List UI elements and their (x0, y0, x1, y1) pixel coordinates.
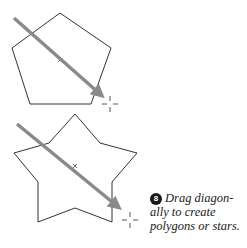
crosshair-cursor-icon (122, 212, 138, 228)
caption-line-3: polygons or stars. (150, 219, 240, 233)
caption-line-1: Drag diagon- (165, 191, 233, 205)
pentagon-group (12, 13, 118, 112)
crosshair-cursor-icon (102, 96, 118, 112)
star-group (14, 114, 138, 228)
step-caption: 8Drag diagon- ally to create polygons or… (150, 191, 247, 233)
step-number-badge: 8 (150, 193, 162, 205)
star-shape (14, 114, 137, 222)
caption-line-2: ally to create (150, 205, 216, 219)
